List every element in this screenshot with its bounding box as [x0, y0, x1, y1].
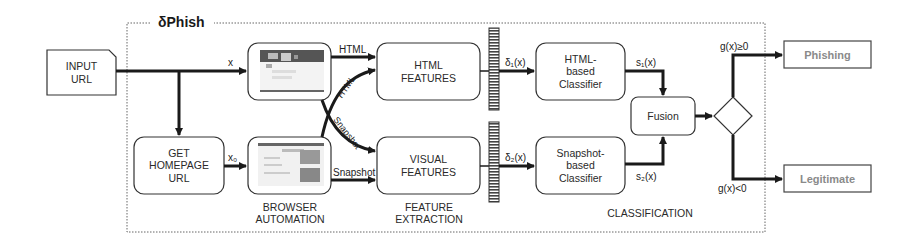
edge-label-s1: s₁(x) — [636, 57, 656, 68]
section-classification: CLASSIFICATION — [600, 206, 700, 220]
decision-diamond — [714, 97, 752, 135]
section-browser-automation: BROWSER AUTOMATION — [246, 199, 334, 227]
edge-label-delta1: δ₁(x) — [505, 57, 526, 68]
edge-label-delta2: δ₂(x) — [505, 152, 526, 163]
snapshot-classifier-label: Snapshot- based Classifier — [536, 137, 625, 194]
edge-label-x0: x₀ — [228, 152, 237, 163]
edge-label-x: x — [228, 57, 233, 68]
input-url-label: INPUT URL — [47, 50, 116, 95]
edge-label-s2: s₂(x) — [636, 171, 657, 182]
section-feature-extraction: FEATURE EXTRACTION — [380, 199, 478, 227]
diagram-title: δPhish — [152, 14, 211, 30]
output-phishing: Phishing — [784, 41, 871, 68]
get-homepage-label: GET HOMEPAGE URL — [134, 137, 224, 194]
visual-features-label: VISUAL FEATURES — [377, 137, 480, 194]
edge-label-html-top: HTML — [339, 44, 366, 55]
html-features-label: HTML FEATURES — [377, 43, 480, 100]
edge-label-g-neg: g(x)<0 — [718, 183, 747, 194]
output-legitimate: Legitimate — [784, 165, 871, 192]
edge-label-snapshot-bottom: Snapshot — [333, 167, 375, 178]
feature-vector-bar-1 — [489, 28, 499, 110]
webpage-thumbnail-bottom — [258, 143, 324, 186]
edge-label-g-pos: g(x)≥0 — [720, 41, 748, 52]
html-classifier-label: HTML- based Classifier — [536, 43, 625, 100]
feature-vector-bar-2 — [489, 122, 499, 202]
webpage-thumbnail-top — [260, 50, 324, 92]
fusion-label: Fusion — [631, 97, 695, 135]
